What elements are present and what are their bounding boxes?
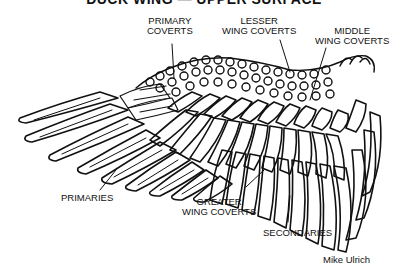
label-secondaries: SECONDARIES	[263, 228, 332, 238]
label-lesser-wing-coverts: LESSER WING COVERTS	[222, 16, 296, 36]
primaries-feathers	[19, 92, 232, 202]
primary-coverts-feathers	[120, 84, 178, 120]
label-primaries: PRIMARIES	[61, 193, 113, 203]
label-middle-wing-coverts: MIDDLE WING COVERTS	[315, 26, 389, 46]
label-greater-wing-coverts: GREATER WING COVERTS	[182, 197, 256, 217]
illustrator-credit: Mike Ulrich	[323, 254, 370, 265]
lesser-coverts-feathers	[136, 56, 374, 101]
label-primary-coverts: PRIMARY COVERTS	[147, 16, 193, 36]
